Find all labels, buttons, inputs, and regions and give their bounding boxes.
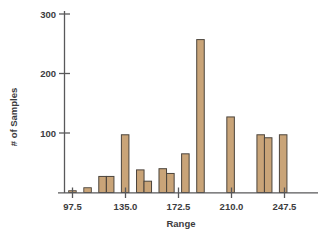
bar-13 (167, 173, 175, 192)
bar-4 (99, 176, 107, 192)
y-tick-label-300: 300 (40, 9, 56, 20)
y-tick-label-100: 100 (40, 128, 56, 139)
bar-25 (257, 135, 265, 193)
bar-10 (144, 181, 152, 192)
x-tick-label-172-5: 172.5 (167, 201, 191, 212)
x-axis-title: Range (166, 218, 195, 229)
bar-17 (197, 40, 205, 193)
bar-28 (279, 135, 287, 193)
bar-5 (106, 176, 114, 192)
bar-9 (137, 170, 145, 193)
y-axis-title: # of Samples (8, 88, 19, 147)
x-tick-label-247-5: 247.5 (273, 201, 297, 212)
bar-15 (182, 154, 190, 193)
bar-21 (227, 117, 235, 193)
x-tick-label-210-0: 210.0 (220, 201, 244, 212)
bar-2 (84, 188, 92, 193)
histogram-chart: # of Samples 300 200 100 97.5 135.0 172.… (0, 0, 325, 238)
x-tick-label-135-0: 135.0 (114, 201, 138, 212)
bar-7 (121, 135, 129, 193)
bar-26 (264, 138, 272, 193)
x-tick-label-97-5: 97.5 (63, 201, 82, 212)
bars-group (69, 40, 287, 193)
bar-12 (159, 169, 167, 193)
chart-svg: # of Samples 300 200 100 97.5 135.0 172.… (0, 0, 325, 238)
y-tick-label-200: 200 (40, 68, 56, 79)
